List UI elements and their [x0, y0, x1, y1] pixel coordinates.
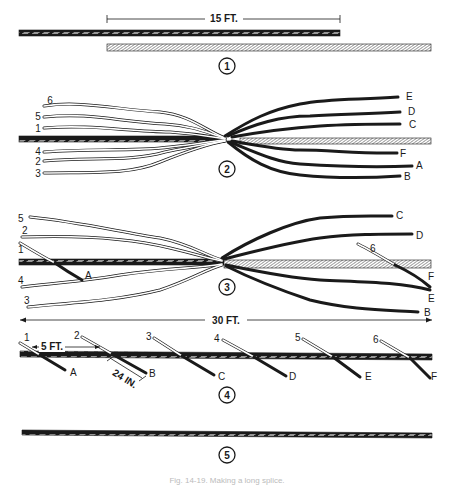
strand-label: E: [406, 91, 413, 102]
strand-label: F: [400, 148, 406, 159]
strand-label: 5: [18, 213, 24, 224]
figure-caption: Fig. 14-19. Making a long splice.: [169, 476, 284, 485]
strand-label: 1: [18, 244, 24, 255]
step-3: 5 2 1 4 3 A C D 6 F E B 3 30 FT.: [18, 210, 435, 326]
svg-text:2: 2: [224, 164, 230, 175]
finished-rope: [22, 430, 432, 438]
light-rope: [240, 138, 431, 144]
step-2: 6 5 1 4 2 3 E D C F A B 2: [19, 91, 431, 182]
strand-label: 6: [47, 95, 53, 106]
strand-label: 2: [74, 330, 80, 341]
strand-label: A: [85, 270, 92, 281]
svg-text:5: 5: [224, 450, 230, 461]
strand-label: 2: [22, 225, 28, 236]
strand-label: D: [416, 230, 423, 241]
strand-label: C: [409, 119, 416, 130]
strand-label: 6: [373, 334, 379, 345]
splice-diagram: 15 FT. 1: [0, 0, 454, 485]
svg-text:1: 1: [224, 61, 230, 72]
strand-label: D: [289, 371, 296, 382]
dark-strands: [225, 97, 412, 177]
strand-label: 1: [35, 123, 41, 134]
dimension-15ft: 15 FT.: [107, 13, 340, 24]
strand-label: A: [70, 367, 77, 378]
strand-label: 2: [35, 156, 41, 167]
dark-rope: [19, 136, 219, 142]
strand-label: 3: [24, 295, 30, 306]
strand-label: E: [365, 371, 372, 382]
spliced-rope: [20, 351, 432, 360]
step-4: 1 2 3 4 5 6 A B C D E F 5 FT. 24 IN. 4: [20, 330, 437, 403]
dimension-label: 30 FT.: [212, 315, 240, 326]
strand-label: 3: [146, 331, 152, 342]
strand-label: B: [404, 171, 411, 182]
svg-text:4: 4: [224, 390, 230, 401]
strand-label: C: [396, 210, 403, 221]
dimension-label: 5 FT.: [41, 341, 63, 352]
strand-label: C: [218, 371, 225, 382]
strand-label: 4: [214, 333, 220, 344]
strand-label: F: [428, 271, 434, 282]
strand-label: 4: [18, 275, 24, 286]
dark-rope: [19, 30, 340, 36]
strand-label: B: [149, 368, 156, 379]
dimension-30ft: 30 FT.: [20, 314, 432, 326]
strand-label: F: [431, 371, 437, 382]
strand-label: E: [428, 293, 435, 304]
dimension-label: 24 IN.: [111, 367, 140, 391]
step-1: 15 FT. 1: [19, 13, 431, 74]
strand-label: A: [416, 160, 423, 171]
strand-label: B: [424, 307, 431, 318]
dimension-label: 15 FT.: [210, 13, 238, 24]
step-5: 5: [22, 430, 432, 463]
light-rope: [107, 44, 431, 51]
strand-label: 6: [370, 243, 376, 254]
svg-text:3: 3: [224, 282, 230, 293]
strand-label: 3: [35, 168, 41, 179]
strand-label: 5: [295, 332, 301, 343]
strand-label: 5: [35, 111, 41, 122]
strand-label: 1: [24, 332, 30, 343]
strand-label: D: [408, 106, 415, 117]
